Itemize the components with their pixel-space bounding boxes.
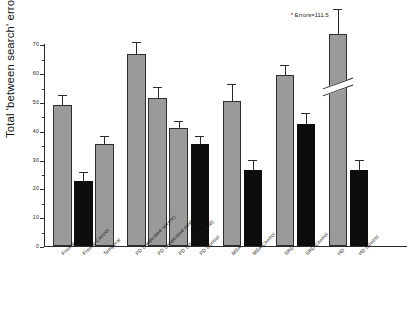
error-bar-11 (338, 10, 339, 34)
bar-hd-control (350, 170, 369, 246)
error-bar-0 (62, 96, 63, 105)
y-tick-label-60: 60 (33, 72, 39, 77)
x-axis-line (44, 246, 407, 247)
y-minor-tick-5 (42, 233, 45, 234)
error-bar-10 (306, 114, 307, 124)
y-tick-50 (40, 103, 44, 104)
bar-srd (276, 75, 295, 246)
y-axis-title: Total 'between search' errors (4, 0, 16, 138)
y-minor-tick-35 (42, 146, 45, 147)
y-tick-label-20: 20 (33, 187, 39, 192)
bar-series (45, 30, 407, 246)
bar-pd-medicated-severe (127, 54, 146, 246)
y-minor-tick-45 (42, 117, 45, 118)
y-tick-10 (40, 218, 44, 219)
y-tick-label-30: 30 (33, 158, 39, 163)
y-minor-tick-55 (42, 89, 45, 90)
error-bar-cap-5 (174, 121, 183, 122)
error-bar-5 (179, 122, 180, 128)
y-tick-label-40: 40 (33, 129, 39, 134)
bar-msa-control (244, 170, 263, 246)
y-tick-60 (40, 74, 44, 75)
error-bar-1 (83, 173, 84, 182)
bar-hd (329, 34, 348, 246)
error-bar-cap-8 (248, 160, 257, 161)
y-minor-tick-65 (42, 60, 45, 61)
error-bar-cap-1 (79, 172, 88, 173)
figure-bar-chart: Total 'between search' errors * Errors=1… (0, 0, 415, 325)
error-bar-7 (232, 85, 233, 101)
error-bar-8 (253, 161, 254, 170)
error-bar-cap-0 (58, 95, 67, 96)
bar-frontal-control (74, 181, 93, 246)
error-bar-cap-4 (153, 87, 162, 88)
error-bar-cap-2 (100, 136, 109, 137)
error-bar-cap-11 (333, 9, 342, 10)
y-tick-label-50: 50 (33, 100, 39, 105)
y-tick-40 (40, 132, 44, 133)
error-bar-cap-6 (195, 136, 204, 137)
y-tick-label-70: 70 (33, 43, 39, 48)
bar-msa (223, 101, 242, 246)
y-tick-label-10: 10 (33, 216, 39, 221)
y-tick-30 (40, 161, 44, 162)
plot-area: 010203040506070 (44, 30, 409, 247)
error-bar-6 (200, 137, 201, 144)
y-minor-tick-15 (42, 204, 45, 205)
error-bar-2 (104, 137, 105, 144)
x-label-hd: HD (336, 247, 346, 257)
bar-srd-control (297, 124, 316, 246)
y-minor-tick-25 (42, 175, 45, 176)
y-tick-70 (40, 45, 44, 46)
y-tick-label-0: 0 (36, 244, 39, 249)
error-bar-cap-3 (132, 42, 141, 43)
error-bar-cap-10 (301, 113, 310, 114)
y-tick-0 (40, 247, 44, 248)
annotation-errors: * Errors=111.5 (291, 12, 329, 18)
error-bar-cap-9 (280, 65, 289, 66)
error-bar-cap-12 (355, 160, 364, 161)
error-bar-cap-7 (227, 84, 236, 85)
y-tick-20 (40, 189, 44, 190)
error-bar-9 (285, 66, 286, 75)
error-bar-3 (136, 43, 137, 55)
error-bar-4 (158, 88, 159, 98)
error-bar-12 (359, 161, 360, 170)
bar-frontal (53, 105, 72, 246)
